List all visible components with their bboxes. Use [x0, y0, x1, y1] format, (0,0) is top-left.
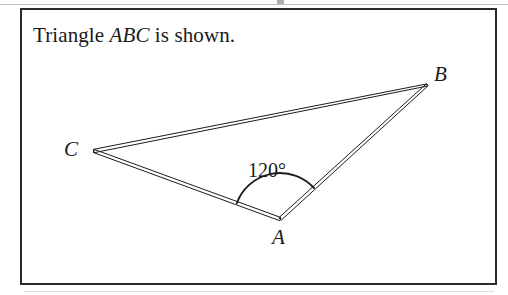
- vertex-label-A: A: [272, 227, 285, 248]
- vertex-label-B: B: [434, 64, 447, 85]
- vertex-label-C: C: [64, 139, 78, 160]
- triangle-side-BA: [279, 84, 428, 220]
- triangle-side-CB: [94, 84, 428, 153]
- figure-canvas: Triangle ABC is shown. A B C 120°: [0, 0, 508, 295]
- angle-measure-label: 120°: [248, 160, 286, 180]
